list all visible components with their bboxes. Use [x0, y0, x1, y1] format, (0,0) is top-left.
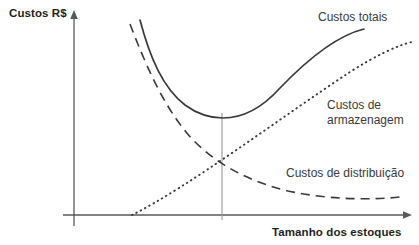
y-axis-title: Custos R$ [9, 7, 67, 19]
x-axis-title: Tamanho dos estoques [272, 226, 402, 238]
series-label-custos-distribuicao: Custos de distribuição [286, 166, 404, 181]
inventory-cost-chart: Custos R$ Tamanho dos estoques Custos to… [0, 0, 419, 245]
arrow-right-icon [403, 211, 412, 219]
series-label-custos-armazenagem-line2: armazenagem [327, 113, 404, 128]
storage-costs-curve [132, 42, 412, 215]
series-label-custos-armazenagem: Custos de armazenagem [327, 98, 404, 128]
series-label-custos-totais: Custos totais [318, 10, 387, 25]
series-label-custos-armazenagem-line1: Custos de [327, 98, 404, 113]
arrow-up-icon [70, 10, 78, 19]
